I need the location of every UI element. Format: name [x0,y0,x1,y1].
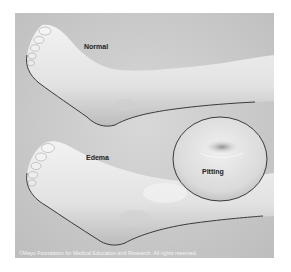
pitting-magnifier [173,117,267,201]
edema-label: Edema [86,154,109,161]
normal-label: Normal [84,43,108,50]
foot-illustration [15,13,274,258]
pitting-label: Pitting [202,168,224,175]
copyright-credit: ©Mayo Foundation for Medical Education a… [19,250,197,256]
illustration-panel: Normal Edema Pitting ©Mayo Foundation fo… [15,13,274,258]
